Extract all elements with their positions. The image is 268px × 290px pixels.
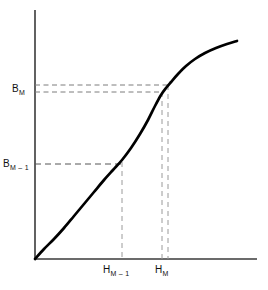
y-tick-label-b-m-minus-1-base: B bbox=[3, 158, 10, 169]
plot-area bbox=[0, 0, 268, 290]
y-tick-label-b-m-sub: M bbox=[19, 89, 25, 96]
x-tick-label-h-m-minus-1-sub: M – 1 bbox=[110, 270, 129, 277]
y-tick-label-b-m-minus-1-sub: M – 1 bbox=[10, 164, 29, 171]
y-tick-label-b-m-base: B bbox=[12, 83, 19, 94]
magnetization-curve bbox=[35, 41, 237, 259]
b-h-curve-figure: BM BM – 1 HM – 1 HM bbox=[0, 0, 268, 290]
x-tick-label-h-m: HM bbox=[155, 265, 169, 275]
x-tick-label-h-m-sub: M bbox=[162, 270, 168, 277]
y-tick-label-b-m: BM bbox=[12, 84, 25, 94]
y-tick-label-b-m-minus-1: BM – 1 bbox=[3, 159, 29, 169]
x-tick-label-h-m-minus-1: HM – 1 bbox=[103, 265, 129, 275]
